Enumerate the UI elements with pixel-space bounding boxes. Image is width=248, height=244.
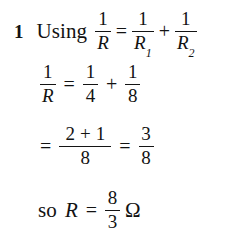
equals-sign-second: = bbox=[119, 136, 130, 156]
equals-sign: = bbox=[116, 21, 127, 41]
fraction-one-over-R2: 1 R2 bbox=[175, 9, 197, 53]
denominator-subscript: 1 bbox=[146, 46, 152, 60]
denominator: 4 bbox=[84, 85, 98, 107]
numerator-plus-sign: + bbox=[80, 123, 91, 144]
fraction-one-over-R: 1 R bbox=[40, 62, 56, 106]
ohm-unit-symbol: Ω bbox=[125, 200, 141, 221]
denominator: R bbox=[40, 85, 56, 107]
fraction-two-plus-one-over-eight: 2+1 8 bbox=[59, 124, 111, 168]
worked-solution-page: 1 Using 1 R = 1 R1 + 1 R2 1 R bbox=[0, 0, 248, 244]
item-number: 1 bbox=[14, 22, 24, 41]
fraction-eight-over-three: 8 3 bbox=[105, 188, 120, 232]
numerator-left-term: 2 bbox=[65, 123, 75, 144]
denominator: 3 bbox=[106, 211, 120, 233]
fraction-one-over-four: 1 4 bbox=[83, 62, 98, 106]
numerator: 2+1 bbox=[63, 124, 107, 146]
numerator: 1 bbox=[136, 9, 150, 31]
plus-sign: + bbox=[106, 74, 117, 94]
numerator: 1 bbox=[126, 62, 140, 84]
fraction-one-over-R: 1 R bbox=[95, 9, 111, 53]
solution-line-1: 1 Using 1 R = 1 R1 + 1 R2 bbox=[14, 9, 197, 53]
numerator: 1 bbox=[96, 9, 110, 31]
denominator: 8 bbox=[126, 85, 140, 107]
prefix-so: so bbox=[38, 200, 57, 221]
denominator: 8 bbox=[139, 147, 153, 169]
numerator: 1 bbox=[179, 9, 193, 31]
denominator-subscript: 2 bbox=[189, 46, 195, 60]
numerator-right-term: 1 bbox=[96, 123, 106, 144]
fraction-three-over-eight: 3 8 bbox=[139, 124, 154, 168]
numerator: 8 bbox=[106, 188, 120, 210]
equals-sign: = bbox=[64, 74, 75, 94]
fraction-one-over-R1: 1 R1 bbox=[132, 9, 154, 53]
denominator: R bbox=[95, 32, 111, 54]
solution-line-3: = 2+1 8 = 3 8 bbox=[40, 124, 154, 168]
equals-sign: = bbox=[40, 136, 51, 156]
denominator: R2 bbox=[175, 32, 197, 54]
numerator: 3 bbox=[139, 124, 153, 146]
numerator: 1 bbox=[84, 62, 98, 84]
solution-line-4: so R = 8 3 Ω bbox=[38, 188, 141, 232]
denominator-symbol: R bbox=[177, 32, 189, 53]
numerator: 1 bbox=[41, 62, 55, 84]
plus-sign: + bbox=[159, 21, 170, 41]
lead-word-using: Using bbox=[37, 21, 88, 42]
denominator: 8 bbox=[79, 147, 93, 169]
variable-R: R bbox=[65, 200, 78, 221]
equals-sign: = bbox=[86, 200, 97, 220]
denominator-symbol: R bbox=[134, 32, 146, 53]
fraction-one-over-eight: 1 8 bbox=[125, 62, 140, 106]
denominator: R1 bbox=[132, 32, 154, 54]
solution-line-2: 1 R = 1 4 + 1 8 bbox=[40, 62, 140, 106]
